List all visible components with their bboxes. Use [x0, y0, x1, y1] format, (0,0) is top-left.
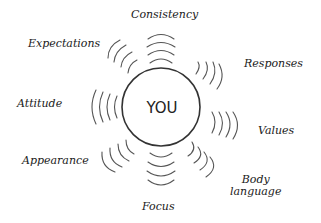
label-attitude: Attitude	[17, 98, 62, 109]
you-radiating-diagram: YOU Consistency Expectations Responses A…	[0, 0, 321, 223]
arcs-left	[92, 90, 117, 124]
center-label-you: YOU	[142, 99, 182, 117]
label-consistency: Consistency	[131, 9, 198, 20]
label-values: Values	[258, 125, 294, 136]
label-appearance: Appearance	[22, 155, 89, 166]
arcs-bottom-right	[188, 142, 214, 177]
arcs-top-right	[196, 62, 222, 89]
label-expectations: Expectations	[28, 38, 100, 49]
arcs-top	[147, 35, 175, 64]
arcs-bottom-left	[102, 140, 134, 172]
label-body-line2: language	[230, 186, 281, 198]
arcs-right	[212, 112, 238, 139]
label-body-language: Body language	[230, 174, 281, 198]
arcs-bottom	[147, 153, 175, 185]
label-focus: Focus	[142, 201, 175, 212]
arcs-top-left	[108, 40, 137, 73]
label-responses: Responses	[244, 58, 303, 69]
